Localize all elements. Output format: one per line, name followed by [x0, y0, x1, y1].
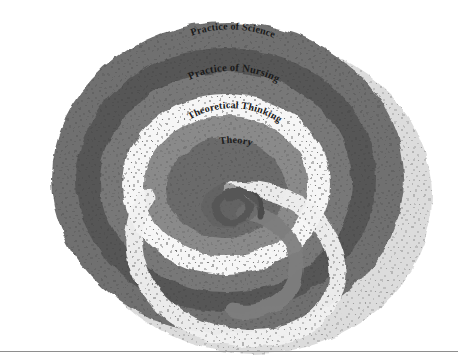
- spiral-diagram: Philosophy of Nursing Philosophy of Scie…: [0, 0, 458, 362]
- bottom-rule: [0, 351, 458, 352]
- figure-root: Philosophy of Nursing Philosophy of Scie…: [0, 0, 458, 362]
- label-philosophy-of-science: Philosophy of Science: [179, 0, 284, 1]
